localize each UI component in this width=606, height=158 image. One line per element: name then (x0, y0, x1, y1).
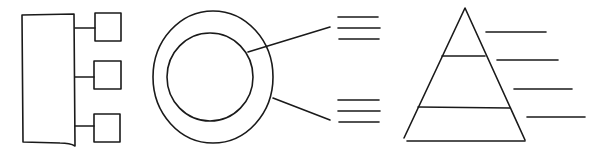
inner-circle (167, 33, 253, 121)
child-box-1 (95, 13, 121, 41)
pyramid-outline (404, 8, 525, 140)
child-box-3 (94, 114, 120, 142)
leader-line-outer (273, 98, 330, 120)
outer-circle (153, 11, 273, 143)
main-block (22, 14, 75, 146)
tier-divider-2 (418, 107, 510, 108)
leader-line-inner (248, 27, 330, 52)
child-box-2 (94, 61, 121, 89)
hierarchy-block-diagram (22, 13, 121, 146)
concentric-circles-diagram (153, 11, 380, 143)
diagram-canvas (0, 0, 606, 158)
pyramid-diagram (404, 8, 585, 141)
